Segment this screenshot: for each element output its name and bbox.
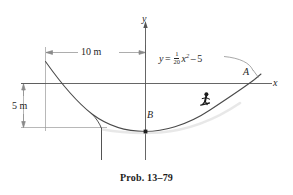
point-b-label: B: [147, 110, 153, 120]
figure-drawing-canvas: [0, 0, 293, 195]
axes-group: [21, 23, 272, 160]
dimension-label-5m: 5 m: [12, 101, 27, 111]
dimension-label-10m: 10 m: [81, 47, 101, 57]
equation-fraction: 1 20: [173, 51, 182, 66]
point-markers-group: [144, 130, 148, 134]
equation-leader-tick: [253, 70, 259, 78]
dimension-5m-arrow-bottom: [22, 122, 26, 128]
equation-constant: 5: [197, 53, 202, 64]
point-a-label: A: [243, 67, 249, 77]
point-b-marker: [144, 130, 148, 134]
x-axis-label: x: [273, 78, 277, 88]
equation-equals: =: [165, 53, 171, 64]
curve-equation-label: y = 1 20 x 2 – 5: [159, 51, 202, 66]
parabola-curve: [46, 62, 262, 132]
curve-left-terminal-group: [92, 114, 102, 160]
equation-lhs: y: [159, 53, 163, 64]
dimension-lines-group: [21, 45, 146, 131]
equation-minus: –: [191, 53, 196, 64]
curve-left-hook: [92, 114, 102, 129]
y-axis-label: y: [142, 14, 146, 24]
dimension-5m-arrow-top: [22, 84, 26, 90]
dimension-10m-arrow-right: [139, 51, 146, 55]
dimension-10m-arrow-left: [46, 51, 53, 55]
equation-exponent: 2: [186, 52, 189, 59]
equation-fraction-denominator: 20: [173, 59, 182, 66]
skier-icon: [201, 92, 210, 105]
skier-torso: [205, 96, 206, 101]
physics-problem-figure: y x A B 10 m 5 m y = 1 20 x 2 – 5 Prob. …: [0, 0, 293, 195]
figure-caption: Prob. 13–79: [0, 172, 293, 183]
